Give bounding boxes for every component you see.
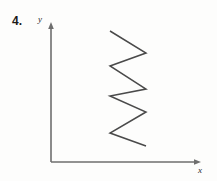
zigzag-curve xyxy=(110,31,146,146)
coordinate-plane-graphic xyxy=(0,0,217,181)
x-axis-arrowhead-icon xyxy=(194,159,201,165)
figure-page: 4. y x xyxy=(0,0,217,181)
y-axis-arrowhead-icon xyxy=(48,22,54,29)
